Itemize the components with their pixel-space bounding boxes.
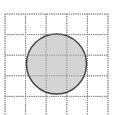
shaded-circle (27, 34, 87, 94)
grid-circle-diagram (0, 0, 115, 115)
